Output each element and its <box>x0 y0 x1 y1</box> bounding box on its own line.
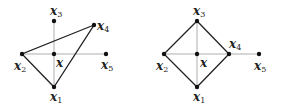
stencil-diagrams: x3 x4 x2 x x5 x1 x3 x4 x2 x x5 x1 <box>0 0 285 109</box>
label-center: x <box>55 56 64 70</box>
point-x2 <box>20 52 24 56</box>
point-x3 <box>195 19 199 23</box>
point-x4 <box>92 23 96 27</box>
label-center: x <box>199 56 208 70</box>
point-x3 <box>52 19 56 23</box>
point-x5 <box>257 52 261 56</box>
label-x2: x2 <box>155 59 168 74</box>
label-x4: x4 <box>228 37 241 52</box>
point-x1 <box>52 85 56 89</box>
point-x4 <box>227 52 231 56</box>
label-x5: x5 <box>100 58 113 73</box>
point-x5 <box>104 52 108 56</box>
label-x1: x1 <box>49 90 62 105</box>
label-x5: x5 <box>253 59 266 74</box>
label-x1: x1 <box>192 90 205 105</box>
triangle-diagram: x3 x4 x2 x x5 x1 <box>13 4 113 105</box>
label-x3: x3 <box>192 4 205 19</box>
label-x4: x4 <box>96 19 109 34</box>
point-center <box>195 52 199 56</box>
label-x2: x2 <box>13 59 26 74</box>
diamond-diagram: x3 x4 x2 x x5 x1 <box>155 4 266 105</box>
point-x1 <box>195 85 199 89</box>
label-x3: x3 <box>49 4 62 19</box>
point-x2 <box>162 52 166 56</box>
